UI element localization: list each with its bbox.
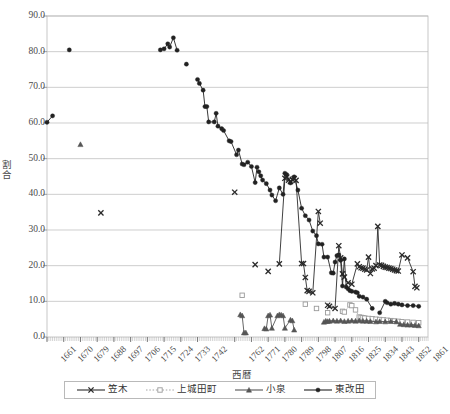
- chart-legend: 笠木上城田町小泉東改田: [64, 381, 376, 399]
- legend-label: 上城田町: [177, 385, 217, 395]
- y-tick-label: 40.0: [1, 190, 45, 200]
- legend-item-3[interactable]: 東改田: [303, 384, 365, 396]
- legend-label: 小泉: [266, 385, 286, 395]
- legend-marker-square-icon: [145, 384, 175, 396]
- y-tick-label: 0.0: [1, 332, 45, 342]
- legend-item-0[interactable]: 笠木: [76, 384, 128, 396]
- legend-marker-x-icon: [76, 384, 106, 396]
- legend-marker-triangle-icon: [234, 384, 264, 396]
- y-axis-title: 割合: [0, 160, 13, 180]
- y-tick-label: 80.0: [1, 47, 45, 57]
- legend-item-1[interactable]: 上城田町: [145, 384, 217, 396]
- y-tick-label: 60.0: [1, 118, 45, 128]
- legend-label: 東改田: [335, 385, 365, 395]
- y-tick-label: 70.0: [1, 83, 45, 93]
- legend-item-2[interactable]: 小泉: [234, 384, 286, 396]
- y-tick-label: 20.0: [1, 261, 45, 271]
- legend-marker-circle-icon: [303, 384, 333, 396]
- y-axis-tick-labels: 0.010.020.030.040.050.060.070.080.090.0: [0, 0, 45, 414]
- y-tick-label: 30.0: [1, 225, 45, 235]
- legend-label: 笠木: [108, 385, 128, 395]
- y-tick-label: 10.0: [1, 297, 45, 307]
- y-tick-label: 90.0: [1, 11, 45, 21]
- x-axis-title: 西暦: [232, 367, 252, 381]
